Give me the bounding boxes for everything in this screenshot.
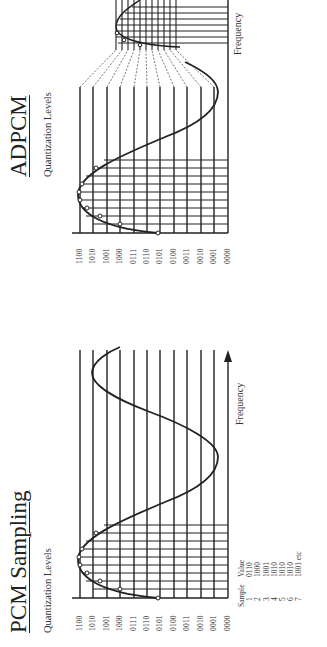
- waveform-graphics: [0, 0, 327, 647]
- arrow-icon: [224, 350, 232, 362]
- diagram-page: PCM Sampling Quantization Levels 1100101…: [0, 0, 327, 647]
- pcm-grid: [72, 350, 228, 598]
